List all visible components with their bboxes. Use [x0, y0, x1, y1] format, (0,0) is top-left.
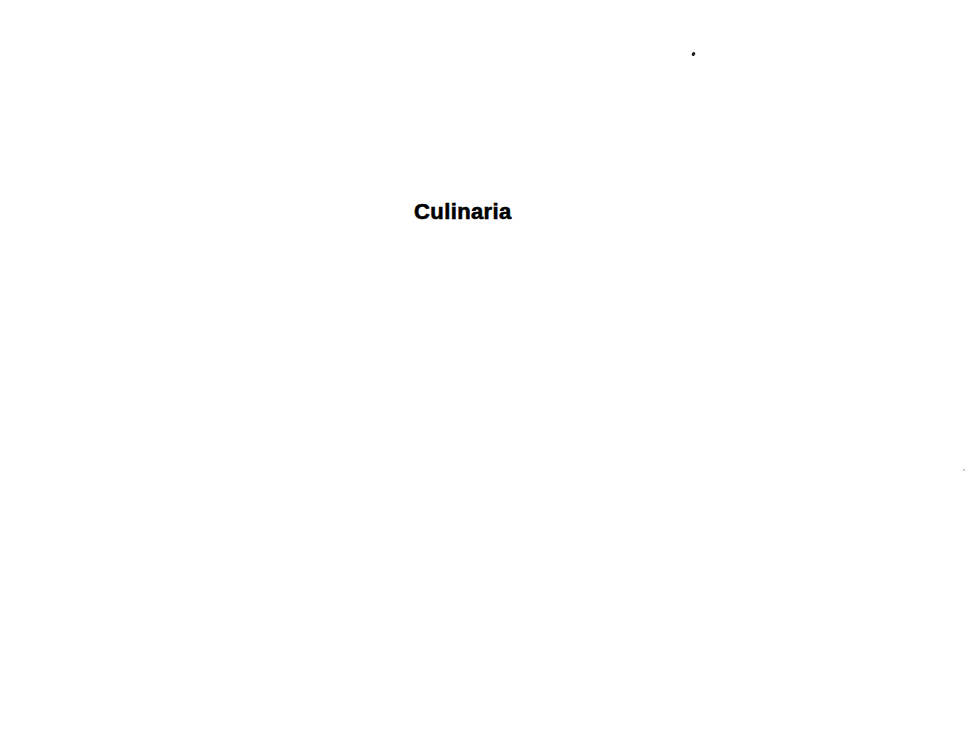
- page-title: Culinaria: [414, 198, 512, 226]
- scan-speck-mark: [691, 52, 696, 57]
- scan-speck-mark: [963, 469, 965, 471]
- document-page: Culinaria: [0, 0, 967, 755]
